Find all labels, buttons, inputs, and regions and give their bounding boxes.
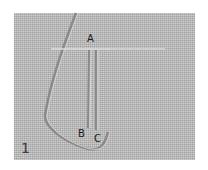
label-c: C <box>94 134 101 144</box>
label-a: A <box>87 34 94 44</box>
vertical-thread-left <box>88 50 89 128</box>
figure-number: 1 <box>21 141 30 155</box>
stitch-diagram <box>0 0 208 170</box>
label-b: B <box>78 129 85 139</box>
